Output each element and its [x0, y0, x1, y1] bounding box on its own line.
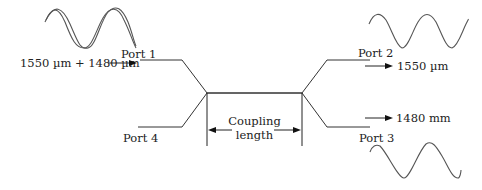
port3-signal-label: 1480 mm — [396, 111, 451, 125]
port4-label: Port 4 — [123, 131, 158, 145]
input-waves — [45, 8, 136, 48]
port3-output-arrow — [365, 115, 393, 121]
port3-label: Port 3 — [359, 131, 394, 145]
directional-coupler-diagram: 1550 µm + 1480 µm Port 1 Coupling length… — [0, 0, 482, 190]
port2-output-arrow — [365, 63, 393, 69]
port2-label: Port 2 — [358, 46, 393, 60]
port3-output-wave — [370, 143, 461, 178]
port2-signal-label: 1550 µm — [397, 59, 448, 73]
input-wave-1550 — [45, 9, 136, 48]
waveguide-upper — [140, 60, 370, 93]
port2-output-wave — [369, 14, 468, 48]
port1-label: Port 1 — [121, 47, 156, 61]
coupling-label-line2: length — [236, 128, 274, 142]
coupling-label-line1: Coupling — [228, 114, 281, 128]
